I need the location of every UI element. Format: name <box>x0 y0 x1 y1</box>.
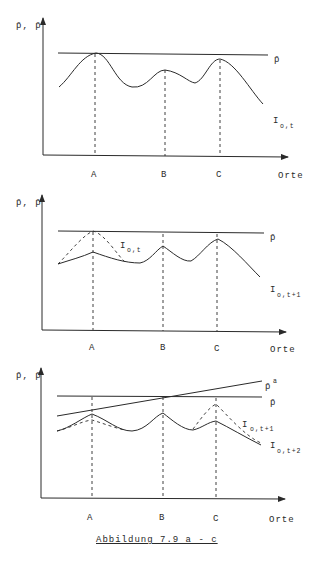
curve-label-sub: o,t+1 <box>277 292 302 299</box>
tick-C: C <box>214 344 220 354</box>
y-axis-label: p̄, p̄ <box>16 21 42 31</box>
p-bar-label: p̄ <box>270 233 276 243</box>
curve-label-I: I <box>270 441 276 451</box>
tick-A: A <box>91 170 97 180</box>
p-bar-a-label: p̄ <box>265 382 271 392</box>
tick-C: C <box>216 170 222 180</box>
figure-canvas: p̄, p̄ p̄ I o,t A B C Orte p̄, p̄ p̄ I o… <box>0 0 320 563</box>
p-bar-line <box>58 53 268 55</box>
p-bar-line <box>57 396 262 397</box>
tick-B: B <box>160 343 166 353</box>
panel-b: p̄, p̄ p̄ I o,t I o,t+1 A B C Orte <box>16 195 302 355</box>
x-axis-label: Orte <box>278 171 304 181</box>
tick-B: B <box>159 513 165 523</box>
curve-label-sub: o,t <box>280 123 295 130</box>
x-axis-label: Orte <box>270 345 296 355</box>
p-bar-a-superscript: a <box>273 378 278 385</box>
curve-I-o-t1 <box>58 239 260 277</box>
y-axis-label: p̄, p̄ <box>16 371 42 381</box>
dashed-label-sub: o,t <box>127 247 142 254</box>
p-bar-line <box>58 231 264 233</box>
tick-A: A <box>89 343 95 353</box>
panel-c: p̄, p̄ p̄ a p̄ I o,t+1 I o,t+2 A B C Ort… <box>16 368 302 525</box>
p-bar-label: p̄ <box>274 55 280 65</box>
x-axis <box>41 498 285 499</box>
p-bar-label: p̄ <box>270 398 276 408</box>
x-axis <box>43 155 288 157</box>
dashed-label-I: I <box>120 241 126 251</box>
figure-caption: Abbildung 7.9 a - c <box>96 535 218 545</box>
dashed-label-sub: o,t+1 <box>250 426 275 433</box>
y-axis-label: p̄, p̄ <box>16 198 42 208</box>
tick-A: A <box>87 513 93 523</box>
p-bar-a-line <box>57 381 262 416</box>
curve-label-I: I <box>273 116 279 126</box>
curve-label-I: I <box>270 285 276 295</box>
curve-I-o-t1-dashed-right <box>193 404 261 443</box>
curve-I-o-t <box>59 53 263 104</box>
x-axis <box>42 330 286 332</box>
panel-a: p̄, p̄ p̄ I o,t A B C Orte <box>16 18 304 181</box>
curve-label-sub: o,t+2 <box>277 448 302 455</box>
curve-I-o-t2 <box>57 413 261 445</box>
dashed-label-I: I <box>242 420 248 430</box>
tick-B: B <box>161 170 167 180</box>
tick-C: C <box>213 514 219 524</box>
x-axis-label: Orte <box>269 515 295 525</box>
